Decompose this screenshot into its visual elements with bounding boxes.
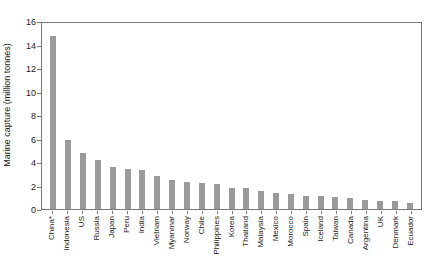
bar [65, 140, 71, 209]
y-tick-label: 14 [26, 41, 36, 51]
x-label-slot: Philippines [209, 211, 224, 269]
x-tick-label: US [78, 216, 86, 227]
bar [184, 182, 190, 209]
x-tick-label: Argentina [362, 216, 370, 250]
bar [392, 201, 398, 209]
x-tick-mark [97, 211, 98, 214]
x-tick-mark [127, 211, 128, 214]
x-label-slot: Malaysia [254, 211, 269, 269]
bar-slot [165, 23, 180, 209]
x-label-slot: Argentina [358, 211, 373, 269]
x-tick-label: Iceland [317, 216, 325, 242]
x-tick-mark [52, 211, 53, 214]
x-tick-mark [336, 211, 337, 214]
bar-slot [180, 23, 195, 209]
x-label-slot: US [75, 211, 90, 269]
bar [199, 183, 205, 209]
x-tick-label: Peru [123, 216, 131, 233]
x-tick-mark [232, 211, 233, 214]
x-tick-mark [67, 211, 68, 214]
bar [125, 169, 131, 209]
x-tick-label: Russia [93, 216, 101, 240]
x-tick-mark [246, 211, 247, 214]
bar [303, 196, 309, 209]
x-tick-label: Thailand [242, 216, 250, 247]
x-tick-label: Japan [108, 216, 116, 238]
x-tick-label: Chile [198, 216, 206, 234]
bar [243, 188, 249, 209]
bar-series [42, 23, 421, 209]
x-label-slot: Peru [120, 211, 135, 269]
bar [332, 197, 338, 209]
bar [95, 160, 101, 209]
x-tick-label: China* [48, 216, 56, 240]
x-label-slot: Norway [179, 211, 194, 269]
x-label-slot: UK [373, 211, 388, 269]
x-tick-mark [411, 211, 412, 214]
x-label-slot: Myanmar [164, 211, 179, 269]
bar-slot [76, 23, 91, 209]
x-label-slot: Japan [105, 211, 120, 269]
x-tick-label: Malaysia [257, 216, 265, 248]
x-tick-mark [261, 211, 262, 214]
bar [229, 188, 235, 209]
bar-slot [298, 23, 313, 209]
y-tick-label: 6 [31, 135, 36, 145]
bar-slot [343, 23, 358, 209]
x-tick-mark [112, 211, 113, 214]
x-tick-label: UK [377, 216, 385, 227]
x-tick-label: Norway [183, 216, 191, 243]
bar-slot [194, 23, 209, 209]
x-tick-mark [82, 211, 83, 214]
x-label-slot: Vietnam [149, 211, 164, 269]
x-label-slot: Ecuador [403, 211, 418, 269]
x-label-slot: Indonesia [60, 211, 75, 269]
x-tick-mark [157, 211, 158, 214]
y-tick-label: 8 [31, 111, 36, 121]
x-tick-label: Spain [302, 216, 310, 236]
bar-slot [105, 23, 120, 209]
bar [110, 167, 116, 209]
y-tick-label: 2 [31, 182, 36, 192]
x-tick-label: Taiwan [332, 216, 340, 241]
x-label-slot: Thailand [239, 211, 254, 269]
x-label-slot: Canada [343, 211, 358, 269]
x-tick-label: Mexico [272, 216, 280, 241]
y-tick-label: 10 [26, 88, 36, 98]
y-axis-tick-labels: 0246810121416 [0, 22, 41, 210]
x-tick-label: Vietnam [153, 216, 161, 245]
marine-capture-bar-chart: Marine capture (million tonnes) 02468101… [0, 0, 432, 270]
x-tick-label: Denmark [392, 216, 400, 248]
x-tick-label: Korea [228, 216, 236, 237]
bar-slot [313, 23, 328, 209]
bar-slot [373, 23, 388, 209]
x-label-slot: Russia [90, 211, 105, 269]
x-tick-mark [202, 211, 203, 214]
bar [139, 170, 145, 209]
bar [318, 196, 324, 209]
x-tick-mark [396, 211, 397, 214]
x-label-slot: Mexico [269, 211, 284, 269]
bar-slot [328, 23, 343, 209]
bar [288, 194, 294, 209]
x-tick-label: Ecuador [407, 216, 415, 246]
x-tick-mark [291, 211, 292, 214]
bar [169, 180, 175, 209]
bar [80, 153, 86, 209]
x-tick-label: Philippines [213, 216, 221, 255]
bar-slot [402, 23, 417, 209]
x-label-slot: Iceland [314, 211, 329, 269]
x-tick-label: Indonesia [63, 216, 71, 251]
plot-area [41, 22, 422, 210]
x-label-slot: Denmark [388, 211, 403, 269]
bar-slot [284, 23, 299, 209]
y-tick-label: 0 [31, 205, 36, 215]
x-axis-tick-labels: China*IndonesiaUSRussiaJapanPeruIndiaVie… [41, 211, 422, 269]
bar-slot [239, 23, 254, 209]
bar [377, 201, 383, 209]
bar [362, 200, 368, 209]
x-tick-mark [366, 211, 367, 214]
bar [407, 203, 413, 209]
bar-slot [61, 23, 76, 209]
x-tick-label: India [138, 216, 146, 233]
